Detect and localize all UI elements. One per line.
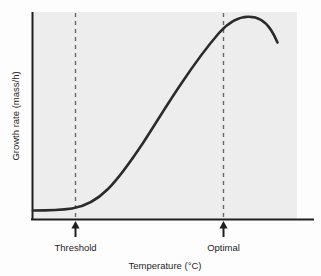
threshold-label: Threshold xyxy=(54,242,96,253)
chart-canvas: Threshold Optimal Temperature (°C) Growt… xyxy=(0,0,321,276)
optimal-label: Optimal xyxy=(207,242,240,253)
threshold-arrow-icon xyxy=(71,221,79,237)
y-axis-label: Growth rate (mass/h) xyxy=(10,71,21,160)
optimal-arrow-icon xyxy=(219,221,227,237)
plot-texture-band xyxy=(32,12,297,220)
x-axis-label: Temperature (°C) xyxy=(129,260,202,271)
growth-rate-temperature-figure: Threshold Optimal Temperature (°C) Growt… xyxy=(0,0,321,276)
